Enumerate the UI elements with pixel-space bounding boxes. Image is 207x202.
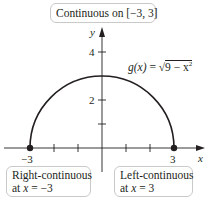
callout-right-line2: at x = 3 — [120, 182, 187, 195]
callout-left-line2: at x = −3 — [12, 182, 85, 195]
function-label: g(x) = √9 − x2 — [128, 60, 192, 73]
y-axis-label: y — [90, 26, 95, 38]
callout-right-line1: Left-continuous — [120, 169, 187, 182]
callout-title-text: Continuous on [−3, 3] — [56, 7, 158, 19]
endpoint-right-dot — [171, 145, 177, 151]
x-tick-label-neg3: −3 — [21, 153, 33, 165]
callout-left-line1: Right-continuous — [12, 169, 85, 182]
y-tick-label-4: 4 — [89, 46, 95, 58]
equals-sign: = — [149, 61, 156, 73]
function-name: g(x) — [128, 61, 147, 73]
radicand: 9 − x2 — [165, 60, 192, 73]
right-continuous-callout: Right-continuous at x = −3 — [6, 166, 91, 197]
endpoint-left-dot — [27, 145, 33, 151]
y-tick-label-2: 2 — [89, 94, 95, 106]
y-axis-arrow-icon — [99, 27, 105, 37]
left-continuous-callout: Left-continuous at x = 3 — [114, 166, 193, 197]
exponent: 2 — [189, 60, 193, 68]
x-axis-arrow-icon — [196, 145, 205, 151]
x-tick-label-3: 3 — [170, 153, 176, 165]
continuity-interval-callout: Continuous on [−3, 3] — [50, 3, 156, 23]
x-axis-label: x — [198, 152, 203, 164]
